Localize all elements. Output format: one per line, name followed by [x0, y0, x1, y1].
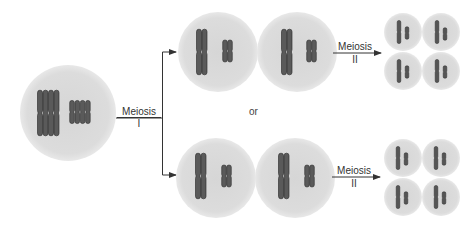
meiosis-1-label-top: Meiosis	[117, 106, 161, 118]
meiosis-1-label: Meiosis I	[117, 106, 161, 129]
meiosis-2-upper-label-bottom: II	[333, 54, 377, 65]
parent-cell	[20, 65, 116, 161]
meiosis-1-label-bottom: I	[117, 118, 161, 129]
meiosis-2-gametes-option-a	[384, 13, 460, 90]
meiosis-diagram	[0, 0, 473, 225]
meiosis-2-lower-label-top: Meiosis	[332, 165, 376, 176]
or-label: or	[249, 106, 258, 117]
meiosis-2-label-lower: Meiosis II	[332, 165, 376, 189]
meiosis-1-daughter-cells-option-b	[176, 138, 335, 218]
meiosis-2-label-upper: Meiosis II	[333, 41, 377, 65]
meiosis-2-lower-label-bottom: II	[332, 178, 376, 189]
meiosis-2-gametes-option-b	[384, 139, 460, 216]
meiosis-2-upper-label-top: Meiosis	[333, 41, 377, 52]
meiosis-1-daughter-cells-option-a	[178, 12, 337, 92]
